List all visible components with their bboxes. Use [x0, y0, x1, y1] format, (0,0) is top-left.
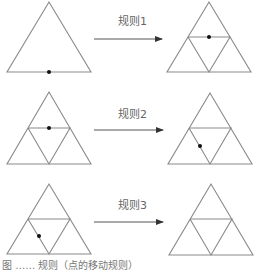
- rule-label: 规则1: [118, 14, 147, 28]
- triangle-after: [169, 184, 253, 255]
- figure-caption: 图 …… 规则（点的移动规则）: [2, 260, 138, 272]
- rule-label: 规则3: [118, 198, 147, 212]
- triangle-after: [168, 93, 252, 164]
- row-1: 规则1: [7, 2, 251, 74]
- point-marker: [198, 144, 202, 148]
- point-marker: [37, 234, 41, 238]
- rule-label: 规则2: [118, 107, 147, 121]
- point-marker: [47, 126, 51, 130]
- point-marker: [207, 35, 211, 39]
- point-marker: [47, 70, 51, 74]
- row-3: 规则3: [7, 184, 253, 255]
- row-2: 规则2: [7, 92, 252, 164]
- triangle-before: [7, 92, 91, 164]
- triangle-before: [7, 2, 91, 74]
- triangle-after: [167, 2, 251, 72]
- triangle-before: [7, 184, 91, 254]
